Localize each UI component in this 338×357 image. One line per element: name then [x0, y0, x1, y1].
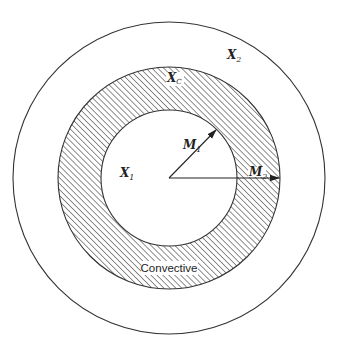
concentric-shells-diagram: X2 XC X1 M1 M2 Convective [0, 0, 338, 357]
convective-label: Convective [141, 262, 198, 274]
diagram-canvas: X2 XC X1 M1 M2 Convective [0, 0, 338, 357]
